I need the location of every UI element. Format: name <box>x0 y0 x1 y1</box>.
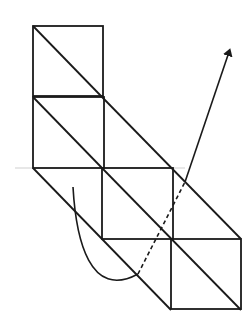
squares-group <box>33 26 241 309</box>
arrow-segment <box>185 52 229 182</box>
diagonal-line-2 <box>33 97 102 168</box>
diagonal-line-1 <box>33 26 102 97</box>
diagram-canvas <box>0 0 251 333</box>
curve-dashed-hidden-segment <box>138 182 185 274</box>
